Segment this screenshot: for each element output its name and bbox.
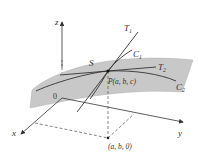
point-p	[106, 69, 109, 72]
y-axis	[62, 98, 183, 122]
surface-label: S	[89, 58, 94, 68]
x-axis-label: x	[11, 128, 16, 138]
c1-label: C1	[133, 49, 142, 60]
projection-line-y	[108, 114, 134, 138]
t1-label: T1	[124, 23, 132, 34]
projection-line-x	[35, 123, 108, 138]
y-axis-label: y	[177, 128, 182, 138]
tangent-plane-diagram: z x y 0 S P(a, b, c) (a, b, 0) T1 C1 T2 …	[0, 0, 198, 159]
point-label: P(a, b, c)	[107, 77, 136, 86]
projection-label: (a, b, 0)	[108, 142, 132, 151]
origin-label: 0	[53, 92, 57, 101]
z-axis-label: z	[54, 17, 59, 27]
projection-point	[107, 137, 110, 140]
